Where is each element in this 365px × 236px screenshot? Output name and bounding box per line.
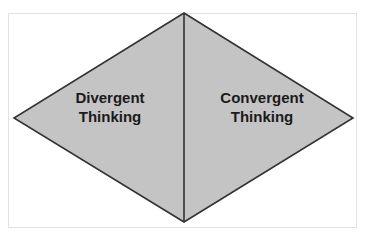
right-half-label-convergent-thinking: Convergent Thinking bbox=[192, 88, 332, 126]
left-label-line-1: Divergent bbox=[44, 88, 176, 107]
diagram-canvas: Divergent Thinking Convergent Thinking bbox=[0, 0, 365, 236]
right-label-line-1: Convergent bbox=[192, 88, 332, 107]
left-half-label-divergent-thinking: Divergent Thinking bbox=[44, 88, 176, 126]
left-label-line-2: Thinking bbox=[44, 107, 176, 126]
right-label-line-2: Thinking bbox=[192, 107, 332, 126]
